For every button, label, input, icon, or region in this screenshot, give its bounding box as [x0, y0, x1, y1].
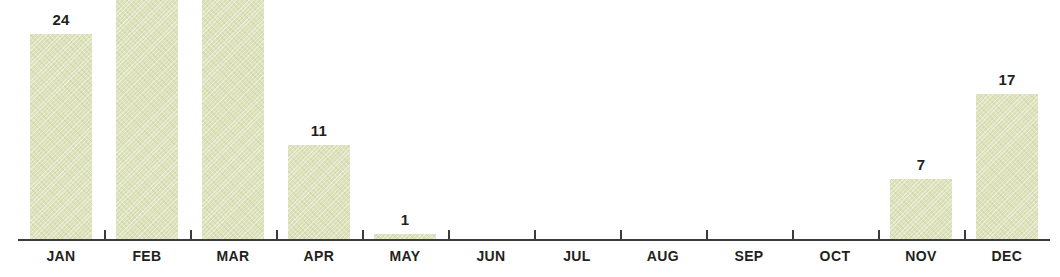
- bar-feb[interactable]: [116, 0, 178, 239]
- bar-group-jan: 24: [18, 0, 104, 240]
- x-tick-label-nov: NOV: [878, 245, 964, 273]
- x-axis-tick: [448, 230, 450, 239]
- bar-chart: 24 28 28 11 1: [0, 0, 1060, 277]
- bar-value-label: 24: [52, 12, 69, 27]
- bar-bands: 24 28 28 11 1: [18, 0, 1050, 240]
- bar-group-may: 1: [362, 0, 448, 240]
- x-tick-label-feb: FEB: [104, 245, 190, 273]
- bar-mar[interactable]: [202, 0, 264, 239]
- x-axis-tick: [362, 230, 364, 239]
- bar-group-sep: [706, 0, 792, 240]
- bar-value-label: 17: [998, 72, 1015, 87]
- bar-group-jun: [448, 0, 534, 240]
- bar-jan[interactable]: [30, 34, 92, 239]
- x-tick-label-jun: JUN: [448, 245, 534, 273]
- x-tick-label-dec: DEC: [964, 245, 1050, 273]
- bar-apr[interactable]: [288, 145, 350, 239]
- x-tick-label-may: MAY: [362, 245, 448, 273]
- bar-value-label: 11: [311, 123, 327, 138]
- x-axis-tick: [190, 230, 192, 239]
- x-axis-tick: [620, 230, 622, 239]
- bar-group-mar: 28: [190, 0, 276, 240]
- x-tick-label-mar: MAR: [190, 245, 276, 273]
- bar-group-dec: 17: [964, 0, 1050, 240]
- x-tick-label-jan: JAN: [18, 245, 104, 273]
- x-axis-category-labels: JAN FEB MAR APR MAY JUN JUL AUG SEP OCT …: [18, 245, 1050, 273]
- bar-dec[interactable]: [976, 94, 1038, 239]
- bar-group-apr: 11: [276, 0, 362, 240]
- bar-group-oct: [792, 0, 878, 240]
- x-axis-ticks: [18, 230, 1050, 240]
- x-tick-label-jul: JUL: [534, 245, 620, 273]
- x-axis-tick: [104, 230, 106, 239]
- x-tick-label-aug: AUG: [620, 245, 706, 273]
- x-axis-tick: [964, 230, 966, 239]
- bar-group-aug: [620, 0, 706, 240]
- x-axis-tick: [534, 230, 536, 239]
- plot-area: 24 28 28 11 1: [18, 0, 1050, 240]
- bar-value-label: 1: [401, 212, 410, 227]
- x-tick-label-apr: APR: [276, 245, 362, 273]
- bar-group-nov: 7: [878, 0, 964, 240]
- bar-group-jul: [534, 0, 620, 240]
- x-axis-tick: [792, 230, 794, 239]
- x-axis-tick: [276, 230, 278, 239]
- bar-group-feb: 28: [104, 0, 190, 240]
- x-tick-label-sep: SEP: [706, 245, 792, 273]
- x-tick-label-oct: OCT: [792, 245, 878, 273]
- x-axis-tick: [878, 230, 880, 239]
- bar-value-label: 7: [917, 157, 926, 172]
- x-axis-tick: [706, 230, 708, 239]
